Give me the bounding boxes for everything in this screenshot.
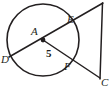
label-point-C: C xyxy=(101,77,108,88)
label-point-F: F xyxy=(64,61,71,72)
center-point-dot xyxy=(41,38,46,43)
label-radius-measure: 5 xyxy=(46,48,52,59)
line-vertical-right-side xyxy=(100,3,103,79)
line-A-to-C xyxy=(43,40,100,78)
geometry-figure: A D E F C 5 xyxy=(0,0,111,92)
label-point-E: E xyxy=(67,14,74,25)
geometry-drawing xyxy=(0,0,111,92)
label-point-D: D xyxy=(1,54,9,65)
label-center-A: A xyxy=(31,26,38,37)
